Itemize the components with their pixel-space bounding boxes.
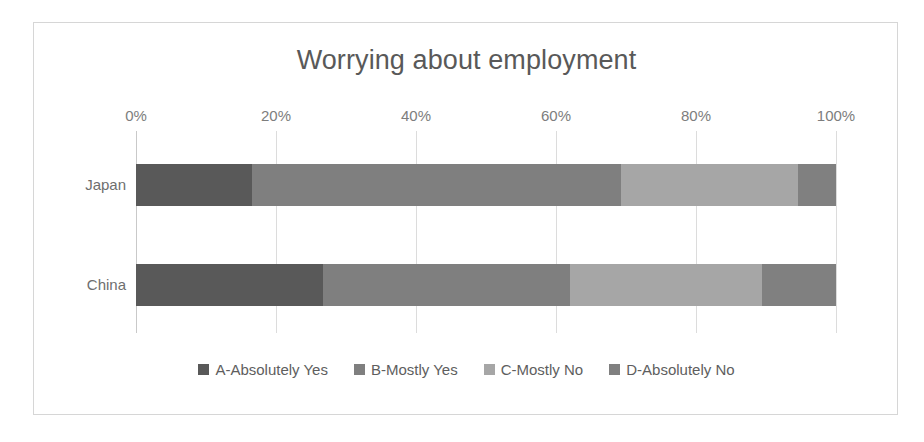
legend-swatch-icon (484, 364, 495, 375)
chart-title: Worrying about employment (34, 45, 899, 76)
bar-segment[interactable] (136, 164, 252, 206)
y-axis-category-labels: JapanChina (34, 131, 126, 333)
x-axis-tick-labels: 0%20%40%60%80%100% (136, 107, 836, 129)
legend-swatch-icon (354, 364, 365, 375)
chart-legend: A-Absolutely YesB-Mostly YesC-Mostly NoD… (34, 361, 899, 378)
bar-segment[interactable] (798, 164, 836, 206)
x-tick-label: 80% (681, 107, 711, 124)
x-tick-label: 60% (541, 107, 571, 124)
bar-row-china (136, 264, 836, 306)
category-label-china: China (87, 276, 126, 293)
legend-item[interactable]: B-Mostly Yes (354, 361, 458, 378)
legend-swatch-icon (198, 364, 209, 375)
bar-segment[interactable] (762, 264, 836, 306)
legend-swatch-icon (609, 364, 620, 375)
category-label-japan: Japan (85, 176, 126, 193)
legend-label: D-Absolutely No (626, 361, 734, 378)
legend-item[interactable]: A-Absolutely Yes (198, 361, 328, 378)
legend-item[interactable]: C-Mostly No (484, 361, 584, 378)
bar-segment[interactable] (570, 264, 762, 306)
legend-label: A-Absolutely Yes (215, 361, 328, 378)
bar-segment[interactable] (136, 264, 323, 306)
legend-item[interactable]: D-Absolutely No (609, 361, 734, 378)
bar-segment[interactable] (621, 164, 798, 206)
x-tick-label: 20% (261, 107, 291, 124)
bar-row-japan (136, 164, 836, 206)
legend-label: C-Mostly No (501, 361, 584, 378)
bar-segment[interactable] (323, 264, 570, 306)
x-tick-label: 0% (125, 107, 147, 124)
plot-area (136, 131, 836, 333)
gridline-100pct (836, 131, 837, 333)
chart-frame: Worrying about employment 0%20%40%60%80%… (33, 22, 898, 415)
bar-segment[interactable] (252, 164, 622, 206)
legend-label: B-Mostly Yes (371, 361, 458, 378)
x-tick-label: 40% (401, 107, 431, 124)
x-tick-label: 100% (817, 107, 855, 124)
